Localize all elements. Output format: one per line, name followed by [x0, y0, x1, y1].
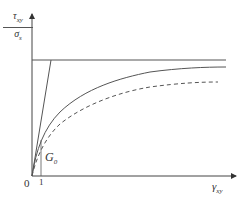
x-axis-label: γxy	[212, 180, 223, 195]
origin-label: 0	[24, 177, 30, 189]
y-axis-label: τxy σs	[3, 10, 33, 44]
tick-label: 1	[39, 177, 44, 187]
stress-strain-diagram	[0, 0, 244, 199]
slope-label: G0	[45, 150, 57, 166]
lower-curve	[32, 82, 218, 176]
upper-curve	[32, 67, 226, 176]
